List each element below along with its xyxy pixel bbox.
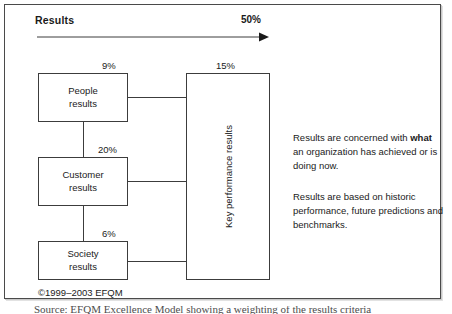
- description-p1-part1: Results are concerned with: [293, 132, 410, 143]
- connector-customer-to-society: [83, 206, 84, 241]
- node-label-people-line2: results: [69, 98, 97, 109]
- flow-arrow-icon: [37, 32, 269, 42]
- percent-label-society: 6%: [102, 228, 116, 239]
- node-box-people-results: People results: [38, 73, 128, 122]
- page-title: Results: [35, 14, 74, 26]
- node-label-key-performance: Key performance results: [223, 125, 234, 228]
- node-box-customer-results: Customer results: [38, 157, 128, 206]
- total-weight-label: 50%: [241, 14, 261, 25]
- node-label-society-line1: Society: [67, 248, 98, 259]
- figure-caption-text: Source: EFQM Excellence Model showing a …: [34, 306, 371, 314]
- connector-people-to-customer: [83, 122, 84, 157]
- connector-society-to-kpi: [128, 261, 186, 262]
- description-p1-emphasis: what: [410, 132, 432, 143]
- node-label-customer-line2: results: [69, 182, 97, 193]
- description-paragraph-2: Results are based on historic performanc…: [293, 190, 443, 231]
- figure-frame: Results 50% 9% 20% 6% 15% People results…: [4, 4, 441, 299]
- percent-label-key-performance: 15%: [216, 60, 235, 71]
- node-box-society-results: Society results: [38, 241, 128, 280]
- connector-people-to-kpi: [128, 97, 186, 98]
- node-label-customer-line1: Customer: [62, 169, 103, 180]
- node-box-key-performance-results: Key performance results: [186, 73, 270, 280]
- percent-label-customer: 20%: [98, 144, 117, 155]
- figure-caption-strip: Source: EFQM Excellence Model showing a …: [0, 306, 452, 314]
- description-p1-part2: an organization has achieved or is doing…: [293, 146, 437, 171]
- description-paragraph-1: Results are concerned with what an organ…: [293, 131, 443, 172]
- node-label-society-line2: results: [69, 261, 97, 272]
- copyright-notice: ©1999–2003 EFQM: [38, 287, 123, 298]
- percent-label-people: 9%: [102, 60, 116, 71]
- connector-customer-to-kpi: [128, 181, 186, 182]
- node-label-people-line1: People: [68, 85, 98, 96]
